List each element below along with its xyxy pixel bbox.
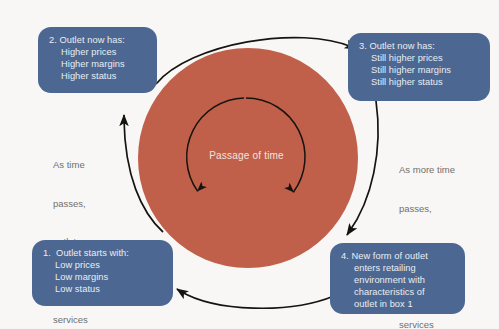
stage-box-3[interactable]: 3. Outlet now has: Still higher prices S…	[348, 33, 490, 101]
stage-box-4-line-3: environment with	[341, 274, 456, 286]
stage-box-1-line-3: Low margins	[43, 271, 164, 283]
stage-box-3-line-2: Still higher prices	[359, 52, 481, 64]
stage-box-4-line-5: outlet in box 1	[341, 298, 456, 310]
stage-box-1[interactable]: 1. Outlet starts with: Low prices Low ma…	[32, 240, 173, 306]
stage-box-3-line-4: Still higher status	[359, 76, 481, 88]
annotation-left-line-1: As time	[53, 159, 88, 172]
stage-box-2[interactable]: 2. Outlet now has: Higher prices Higher …	[38, 27, 157, 93]
stage-box-1-line-4: Low status	[43, 283, 164, 295]
stage-box-2-line-2: Higher prices	[49, 46, 148, 58]
stage-box-3-line-3: Still higher margins	[359, 64, 481, 76]
annotation-right-line-1: As more time	[399, 164, 455, 177]
stage-box-4-line-1: 4. New form of outlet	[341, 250, 456, 262]
annotation-left-line-5: services	[53, 314, 88, 327]
stage-box-2-line-4: Higher status	[49, 70, 148, 82]
stage-box-2-line-1: 2. Outlet now has:	[49, 34, 148, 46]
annotation-right-line-2: passes,	[399, 203, 455, 216]
stage-box-4-line-4: characteristics of	[341, 286, 456, 298]
stage-box-1-line-1: 1. Outlet starts with:	[43, 247, 164, 259]
annotation-right-line-5: services	[399, 319, 455, 329]
stage-box-2-line-3: Higher margins	[49, 58, 148, 70]
center-label-text: Passage of time	[209, 150, 284, 161]
stage-box-3-line-1: 3. Outlet now has:	[359, 40, 481, 52]
annotation-left-line-2: passes,	[53, 198, 88, 211]
stage-box-4-line-2: enters retailing	[341, 262, 456, 274]
stage-box-4[interactable]: 4. New form of outlet enters retailing e…	[330, 243, 465, 314]
wheel-of-retailing-diagram: Passage of time 2. Outlet now has: Highe…	[0, 0, 499, 329]
arrow-box4-to-box1	[177, 289, 334, 308]
stage-box-1-line-2: Low prices	[43, 259, 164, 271]
